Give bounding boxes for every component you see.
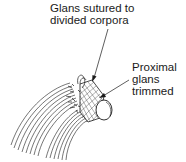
- label-line: trimmed: [132, 85, 177, 97]
- corpora-strands-right: [46, 110, 88, 160]
- corpora-strands-left: [11, 83, 78, 156]
- label-line: Glans sutured to: [50, 2, 134, 14]
- label-proximal-glans: Proximal glans trimmed: [132, 61, 177, 97]
- label-line: Proximal: [132, 61, 177, 73]
- label-glans-sutured: Glans sutured to divided corpora: [50, 2, 134, 26]
- glans-cap: [96, 100, 112, 120]
- label-line: divided corpora: [50, 14, 134, 26]
- pointer-arrow-top: [92, 29, 108, 82]
- label-line: glans: [132, 73, 177, 85]
- pointer-arrow-right: [99, 80, 129, 98]
